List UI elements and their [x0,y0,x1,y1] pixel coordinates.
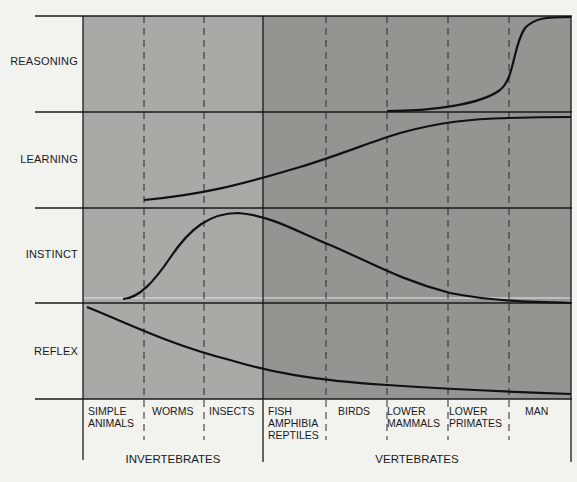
col-label-simple-animals: SIMPLE ANIMALS [88,405,134,429]
col-label-line: AMPHIBIA [268,417,319,429]
group-label-vertebrates: VERTEBRATES [263,453,571,465]
col-label-lower-primates: LOWER PRIMATES [449,405,502,429]
col-label-line: PRIMATES [449,417,502,429]
col-label-line: LOWER [449,405,502,417]
col-label-line: LOWER [387,405,440,417]
row-label-instinct: INSTINCT [0,248,78,260]
col-label-birds: BIRDS [338,405,370,417]
col-label-line: REPTILES [268,429,319,441]
row-label-reflex: REFLEX [0,345,78,357]
group-label-invertebrates: INVERTEBRATES [83,453,263,465]
col-label-line: MAMMALS [387,417,440,429]
col-label-line: SIMPLE [88,405,134,417]
row-label-learning: LEARNING [0,153,78,165]
col-label-man: MAN [525,405,548,417]
col-label-worms: WORMS [152,405,193,417]
col-label-fish-amphibia-reptiles: FISH AMPHIBIA REPTILES [268,405,319,441]
col-label-line: FISH [268,405,319,417]
col-label-lower-mammals: LOWER MAMMALS [387,405,440,429]
row-label-reasoning: REASONING [0,55,78,67]
col-label-line: ANIMALS [88,417,134,429]
col-label-insects: INSECTS [209,405,255,417]
